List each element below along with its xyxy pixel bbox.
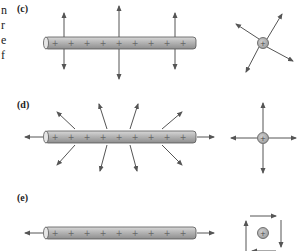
svg-text:+: + xyxy=(260,230,266,238)
svg-text:+: + xyxy=(68,133,75,142)
svg-text:+: + xyxy=(148,133,155,142)
svg-text:+: + xyxy=(100,133,107,142)
svg-text:+: + xyxy=(116,133,123,142)
svg-text:+: + xyxy=(260,135,266,143)
charged-rod-e: +++ +++ +++ xyxy=(44,227,197,239)
svg-text:+: + xyxy=(180,133,187,142)
svg-text:+: + xyxy=(164,229,171,238)
svg-text:+: + xyxy=(116,39,123,48)
point-charge-d: + xyxy=(231,103,296,173)
field-arrow-icon xyxy=(236,24,259,39)
point-charge-e: + xyxy=(246,216,281,251)
field-arrow-icon xyxy=(162,112,182,129)
svg-text:+: + xyxy=(100,39,107,48)
svg-text:+: + xyxy=(132,229,139,238)
field-arrow-icon xyxy=(100,145,107,171)
field-arrow-icon xyxy=(130,104,138,129)
field-arrow-icon xyxy=(267,14,282,39)
field-arrow-icon xyxy=(130,145,137,171)
svg-text:+: + xyxy=(180,39,187,48)
field-arrow-icon xyxy=(57,145,75,165)
svg-text:+: + xyxy=(68,229,75,238)
point-charge-c: + xyxy=(236,14,293,72)
svg-text:+: + xyxy=(260,40,266,48)
field-arrow-icon xyxy=(267,47,293,61)
field-arrow-icon xyxy=(57,112,75,129)
field-arrow-icon xyxy=(246,47,259,72)
svg-text:+: + xyxy=(84,133,91,142)
svg-text:+: + xyxy=(52,229,59,238)
svg-text:+: + xyxy=(132,39,139,48)
field-arrow-icon xyxy=(162,145,182,165)
charged-rod-c: +++ +++ +++ xyxy=(44,37,197,49)
charged-rod-d: +++ +++ +++ xyxy=(44,131,197,143)
svg-text:+: + xyxy=(132,133,139,142)
svg-text:+: + xyxy=(52,133,59,142)
svg-text:+: + xyxy=(84,229,91,238)
svg-text:+: + xyxy=(148,229,155,238)
svg-text:+: + xyxy=(116,229,123,238)
svg-text:+: + xyxy=(68,39,75,48)
svg-text:+: + xyxy=(180,229,187,238)
svg-text:+: + xyxy=(164,39,171,48)
field-diagram: +++ +++ +++ + +++ +++ +++ xyxy=(0,0,297,251)
svg-text:+: + xyxy=(100,229,107,238)
svg-text:+: + xyxy=(148,39,155,48)
field-arrow-icon xyxy=(99,104,107,129)
svg-text:+: + xyxy=(52,39,59,48)
svg-text:+: + xyxy=(84,39,91,48)
svg-text:+: + xyxy=(164,133,171,142)
